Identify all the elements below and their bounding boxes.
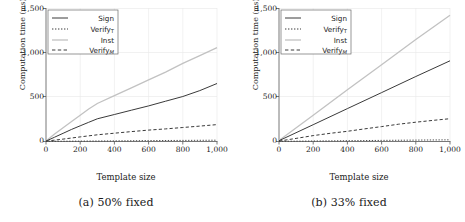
x-tick-label: 0 bbox=[277, 146, 282, 154]
panel-caption-a: (a) 50% fixed bbox=[0, 196, 232, 209]
x-tick-label: 400 bbox=[107, 146, 121, 154]
plot-area-a: Computation time (ms) 1,500 1,000 500 0 bbox=[0, 0, 232, 196]
x-tick-label: 200 bbox=[306, 146, 320, 154]
x-axis-title-a: Template size bbox=[28, 172, 224, 182]
x-tick-labels-a: 0 200 400 600 800 1,000 bbox=[0, 0, 232, 196]
x-tick-label: 400 bbox=[340, 146, 354, 154]
panel-a: Computation time (ms) 1,500 1,000 500 0 bbox=[0, 0, 232, 222]
panel-b: Computation time (ms) 1,500 1,000 500 0 bbox=[233, 0, 465, 222]
x-tick-label: 1,000 bbox=[439, 146, 460, 154]
x-tick-label: 200 bbox=[73, 146, 87, 154]
x-axis-title-b: Template size bbox=[261, 172, 457, 182]
x-tick-label: 1,000 bbox=[206, 146, 227, 154]
x-tick-labels-b: 0 200 400 600 800 1,000 bbox=[233, 0, 465, 196]
x-tick-label: 0 bbox=[44, 146, 49, 154]
figure-two-panel-line-charts: Computation time (ms) 1,500 1,000 500 0 bbox=[0, 0, 465, 222]
plot-area-b: Computation time (ms) 1,500 1,000 500 0 bbox=[233, 0, 465, 196]
x-tick-label: 600 bbox=[374, 146, 388, 154]
x-tick-label: 600 bbox=[141, 146, 155, 154]
x-tick-label: 800 bbox=[176, 146, 190, 154]
x-tick-label: 800 bbox=[409, 146, 423, 154]
panel-caption-b: (b) 33% fixed bbox=[233, 196, 465, 209]
